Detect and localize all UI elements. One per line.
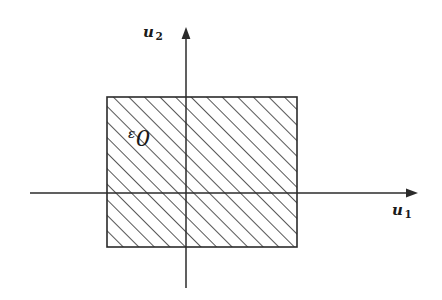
constraint-set-region [107,97,297,247]
axis-label-u1-subscript: 1 [404,208,411,220]
right-arrow-icon [406,189,418,198]
math-figure: u2 u1 ᵋ0 [0,0,442,300]
up-arrow-icon [182,27,191,39]
axis-label-u2-subscript: 2 [155,30,162,42]
figure-canvas [0,0,442,300]
axis-label-u1-base: u [392,201,403,219]
axis-label-u2: u2 [143,25,163,41]
set-symbol-script-u: ᵋ0 [126,127,150,150]
axis-label-u1: u1 [392,203,412,219]
axis-label-u2-base: u [143,23,154,41]
